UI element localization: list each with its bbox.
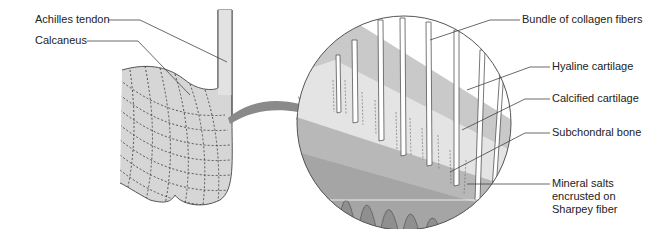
achilles-tendon-shape xyxy=(218,10,232,95)
magnified-section xyxy=(290,10,520,229)
label-calcified-cartilage: Calcified cartilage xyxy=(552,92,639,105)
label-calcaneus: Calcaneus xyxy=(35,34,87,47)
label-subchondral-bone: Subchondral bone xyxy=(552,126,641,139)
label-achilles-tendon: Achilles tendon xyxy=(35,13,110,26)
calcaneus-drawing xyxy=(120,10,232,206)
enthesis-diagram: Achilles tendon Calcaneus Bundle of coll… xyxy=(0,0,664,229)
label-mineral-salts: Mineral salts encrusted on Sharpey fiber xyxy=(552,177,617,216)
label-collagen-fibers: Bundle of collagen fibers xyxy=(522,13,642,26)
label-hyaline-cartilage: Hyaline cartilage xyxy=(552,60,633,73)
